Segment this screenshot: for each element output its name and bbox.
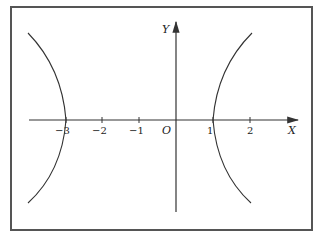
tick-label-neg1: −1 [129,125,144,136]
hyperbola-left-branch [28,33,66,203]
hyperbola-diagram: −3 −2 −1 O 1 2 X Y [0,0,317,235]
origin-label: O [162,124,171,137]
x-axis-label: X [287,124,297,137]
tick-label-neg2: −2 [92,125,107,136]
tick-label-2: 2 [247,125,253,136]
tick-label-neg3: −3 [55,125,70,136]
tick-label-1: 1 [207,125,213,136]
y-axis-label: Y [162,23,171,36]
hyperbola-right-branch [213,33,252,203]
